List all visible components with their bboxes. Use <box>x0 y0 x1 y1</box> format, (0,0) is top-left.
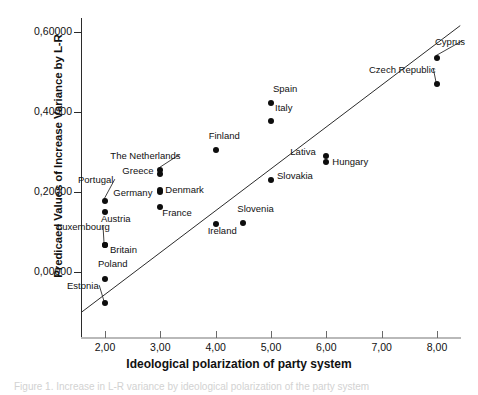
label-leader-lines <box>99 41 462 302</box>
label-leader-line <box>104 179 115 199</box>
regression-line <box>82 26 460 312</box>
plot-overlay <box>0 0 478 395</box>
label-leader-line <box>433 69 436 82</box>
scatter-plot-figure: Predicaed Values of Increase Variance by… <box>0 0 478 395</box>
label-leader-line <box>436 41 463 56</box>
figure-caption: Figure 1. Increase in L-R variance by id… <box>14 381 464 392</box>
label-leader-line <box>103 226 104 243</box>
label-leader-line <box>159 155 179 168</box>
